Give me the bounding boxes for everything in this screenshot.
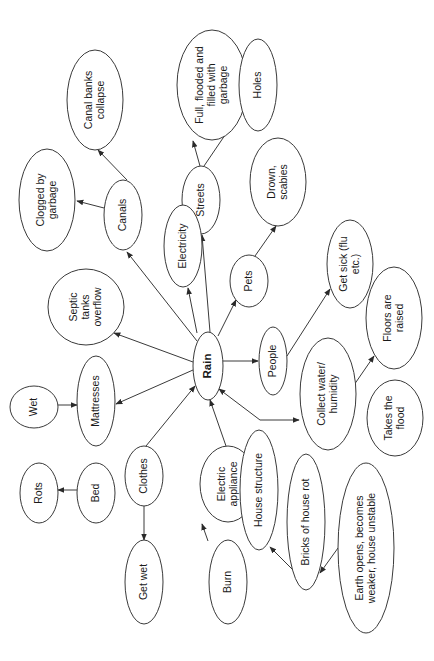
node-label: House structure <box>252 453 264 527</box>
node-clothes: Clothes <box>125 446 163 506</box>
node-get-sick: Get sick (fluetc.) <box>327 220 373 308</box>
concept-map-diagram: RainCanalsCanal bankscollapseClogged byg… <box>0 0 434 661</box>
node-label: Holes <box>251 72 263 99</box>
node-drown-scabies: Drown,scabies <box>250 138 306 226</box>
node-label: Pets <box>242 270 254 291</box>
node-label: Clogged bygarbage <box>34 173 58 227</box>
edge-collect-water-to-floors-raised <box>354 356 374 385</box>
edge-house-structure-to-rain <box>219 389 260 420</box>
edge-electric-appliance-to-rain <box>210 400 226 446</box>
node-canals: Canals <box>104 180 142 250</box>
node-label: Streets <box>194 183 206 216</box>
node-label: Wet <box>27 398 39 417</box>
node-pets: Pets <box>230 255 268 307</box>
node-septic-tanks-overflow: Septictanksoverflow <box>48 269 124 345</box>
node-holes: Holes <box>239 39 277 131</box>
node-burn: Burn <box>209 540 247 624</box>
node-takes-the-flood: Takes theflood <box>367 380 423 456</box>
node-label: Bed <box>89 484 101 503</box>
node-wet: Wet <box>10 386 58 428</box>
edge-canals-to-canal-banks-collapse <box>98 150 127 180</box>
edge-clothes-to-rain <box>146 386 195 446</box>
node-label: Electricity <box>176 223 188 269</box>
node-label: Canals <box>116 199 128 232</box>
node-clogged-by-garbage: Clogged bygarbage <box>19 149 75 251</box>
node-rots: Rots <box>20 463 58 523</box>
edge-rain-to-pets <box>218 300 236 336</box>
node-label: People <box>266 344 278 377</box>
node-label: Mattresses <box>89 375 101 426</box>
edge-burn-to-electric-appliance <box>202 524 208 541</box>
node-bricks-of-house-rot: Bricks of house rot <box>287 454 325 590</box>
edge-pets-to-drown-scabies <box>255 226 276 256</box>
edge-rain-to-streets <box>202 235 210 332</box>
node-label: Earth opens, becomesweaker, house unstab… <box>353 493 377 604</box>
node-label: Burn <box>221 571 233 593</box>
edge-rain-to-electricity <box>188 288 197 333</box>
edge-rain-to-mattresses <box>116 370 193 404</box>
node-electricity: Electricity <box>164 205 202 287</box>
edge-rain-to-septic-tanks-overflow <box>114 333 193 362</box>
nodes-layer: RainCanalsCanal bankscollapseClogged byg… <box>10 30 423 633</box>
node-full-flooded: Full, flooded andfilled withgarbage <box>177 30 247 140</box>
edge-canals-to-clogged-by-garbage <box>77 201 104 208</box>
node-mattresses: Mattresses <box>77 356 115 446</box>
edge-streets-to-full-flooded <box>193 141 200 166</box>
node-bed: Bed <box>77 463 115 523</box>
node-label: Rain <box>201 354 213 379</box>
node-label: Get wet <box>137 564 149 600</box>
node-canal-banks-collapse: Canal bankscollapse <box>67 50 123 150</box>
node-label: Clothes <box>137 458 149 494</box>
node-people: People <box>259 327 287 395</box>
node-label: Bricks of house rot <box>299 478 311 565</box>
node-get-wet: Get wet <box>125 540 163 624</box>
node-label: Drown,scabies <box>265 164 289 200</box>
node-house-structure: House structure <box>240 430 278 550</box>
node-label: Rots <box>32 482 44 504</box>
node-earth-opens: Earth opens, becomesweaker, house unstab… <box>338 463 394 633</box>
node-rain: Rain <box>193 332 223 400</box>
node-floors-raised: Floors areraised <box>366 267 422 369</box>
node-collect-water: Collect water/humidity <box>300 338 356 450</box>
node-label: Electricappliance <box>215 461 239 506</box>
